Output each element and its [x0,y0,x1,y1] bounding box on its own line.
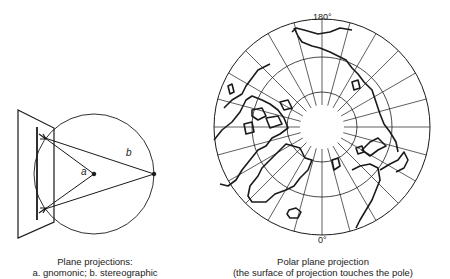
coastline-siberia-island [352,80,360,90]
coastline-islands-4 [280,100,292,110]
center-point [92,172,96,176]
left-caption-subtitle: a. gnomonic; b. stereographic [0,267,190,278]
meridian-line [333,146,376,220]
left-caption: Plane projections: a. gnomonic; b. stere… [0,256,190,278]
coastline-scandinavia [352,164,380,228]
meridian-line [294,148,316,231]
meridian-line [268,34,311,108]
coastline-svalbard [332,158,340,170]
diagram-canvas [0,0,450,279]
left-caption-title: Plane projections: [0,256,190,267]
right-caption-title: Polar plane projection [212,256,434,267]
label-180-degrees: 180° [313,12,332,22]
coastline-island-alaska [228,84,234,94]
coastline-islands-2 [266,116,282,128]
polar-projection-figure [214,19,430,235]
coastline-islands-3 [244,122,254,134]
label-0-degrees: 0° [318,235,327,245]
projection-plane [18,110,54,238]
stereographic-ray-top [45,138,154,174]
meridian-line [246,51,307,112]
label-stereographic-b: b [126,147,132,158]
antipode-point [152,172,156,176]
meridian-line [343,99,426,121]
stereographic-ray-bottom [45,174,154,209]
label-gnomonic-a: a [81,166,87,177]
right-caption-subtitle: (the surface of projection touches the p… [212,267,434,278]
meridian-line [328,23,350,106]
meridian-line [338,143,399,204]
coastline-novaya-zemlya [362,138,386,156]
coastline-kola [380,152,408,172]
coastline-greenland [248,144,312,202]
coastline-franz-josef [356,146,364,154]
meridians [214,19,430,235]
right-caption: Polar plane projection (the surface of p… [212,256,434,278]
